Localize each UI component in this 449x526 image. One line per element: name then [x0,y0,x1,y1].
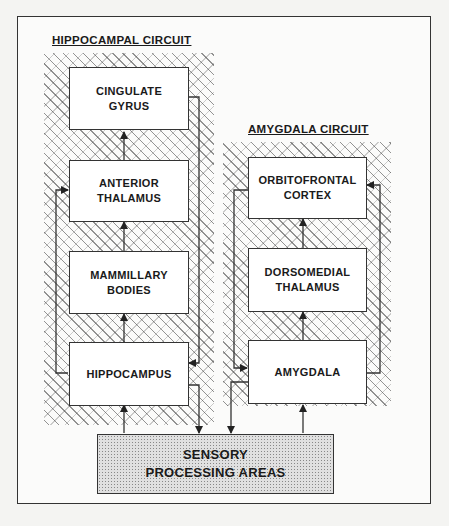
node-orbitofrontal-cortex: ORBITOFRONTAL CORTEX [248,157,367,219]
node-hippocampus: HIPPOCAMPUS [69,342,189,406]
node-sensory-processing-areas: SENSORY PROCESSING AREAS [97,434,334,494]
node-dorsomedial-thalamus: DORSOMEDIAL THALAMUS [248,248,367,312]
node-cingulate-gyrus: CINGULATE GYRUS [69,67,189,130]
node-anterior-thalamus: ANTERIOR THALAMUS [69,160,189,222]
node-mammillary-bodies: MAMMILLARY BODIES [69,251,189,314]
node-amygdala: AMYGDALA [248,340,367,404]
